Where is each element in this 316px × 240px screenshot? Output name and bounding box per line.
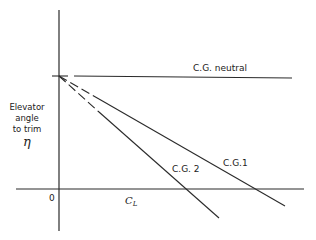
origin-label: 0: [49, 193, 55, 203]
x-axis-label-subscript: L: [132, 200, 138, 208]
y-axis-label-line-2: angle: [15, 113, 39, 123]
cg-neutral-line: [52, 76, 292, 78]
cg-neutral-label: C.G. neutral: [193, 63, 247, 73]
cg-2-label: C.G. 2: [172, 164, 200, 174]
cg-1-line: [59, 76, 285, 206]
y-axis-label: Elevator angle to trim η: [9, 102, 45, 149]
y-axis-label-line-3: to trim: [13, 124, 42, 134]
y-axis-symbol-eta: η: [23, 134, 31, 149]
cg-1-label: C.G.1: [223, 158, 248, 168]
elevator-trim-diagram: C.G. neutral C.G.1 C.G. 2 0 CL Elevator …: [0, 0, 316, 240]
x-axis-label: CL: [125, 195, 138, 208]
cg-2-line: [59, 76, 219, 218]
y-axis-label-line-1: Elevator: [9, 102, 45, 112]
